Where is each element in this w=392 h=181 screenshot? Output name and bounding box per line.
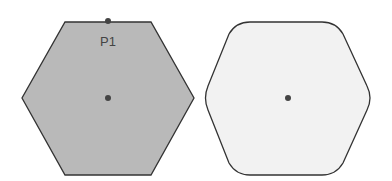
center-dot-left bbox=[105, 95, 111, 101]
hexagon-diagram: P1 bbox=[0, 0, 392, 181]
point-p1-dot bbox=[105, 18, 111, 24]
point-p1-label: P1 bbox=[100, 34, 116, 49]
center-dot-right bbox=[285, 95, 291, 101]
